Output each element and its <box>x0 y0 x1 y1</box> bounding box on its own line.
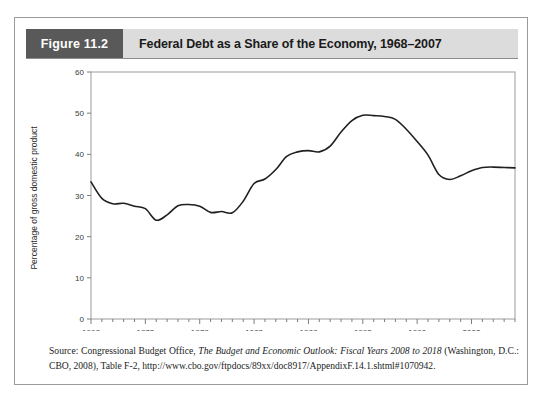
x-axis-ticks: 19681973197819831988199319982003 <box>82 319 515 331</box>
y-tick-label: 30 <box>75 192 84 201</box>
y-tick-label: 60 <box>75 68 84 77</box>
y-tick-label: 0 <box>80 315 85 324</box>
source-note: Source: Congressional Budget Office, The… <box>49 344 519 373</box>
x-tick-label: 1968 <box>82 328 100 331</box>
x-tick-label: 1998 <box>408 328 426 331</box>
chart-plot-area: Percentage of gross domestic product 010… <box>26 66 518 331</box>
figure-container: Figure 11.2 Federal Debt as a Share of t… <box>14 17 528 385</box>
y-axis-title: Percentage of gross domestic product <box>29 126 39 270</box>
x-tick-label: 1978 <box>191 328 209 331</box>
source-note-publication-title: The Budget and Economic Outlook: Fiscal … <box>198 345 441 356</box>
plot-frame <box>91 72 515 319</box>
y-axis-ticks: 0102030405060 <box>75 68 91 324</box>
x-tick-label: 1973 <box>136 328 154 331</box>
y-tick-label: 50 <box>75 109 84 118</box>
source-note-prefix: Source: Congressional Budget Office, <box>49 345 198 356</box>
y-tick-label: 20 <box>75 233 84 242</box>
figure-title: Federal Debt as a Share of the Economy, … <box>123 29 518 58</box>
x-tick-label: 1983 <box>245 328 263 331</box>
x-tick-label: 1988 <box>300 328 318 331</box>
y-tick-label: 10 <box>75 274 84 283</box>
y-tick-label: 40 <box>75 150 84 159</box>
figure-header: Figure 11.2 Federal Debt as a Share of t… <box>26 29 518 59</box>
debt-share-line <box>91 115 515 220</box>
x-tick-label: 1993 <box>354 328 372 331</box>
figure-number-label: Figure 11.2 <box>26 29 123 58</box>
line-chart-svg: Percentage of gross domestic product 010… <box>26 66 518 331</box>
x-tick-label: 2003 <box>463 328 481 331</box>
